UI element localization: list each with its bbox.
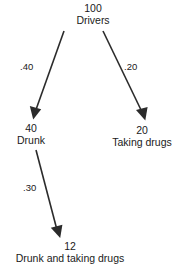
node-drunk-count: 40 [0,122,62,134]
edge-label-drivers-to-drunk: .40 [20,61,33,72]
node-taking-drugs: 20 Taking drugs [98,124,186,148]
arrow-drivers-to-drunk-line [36,31,65,111]
node-drivers-count: 100 [0,2,186,14]
edge-label-drunk-to-both: .30 [23,182,36,193]
arrowhead-drunk-to-both-icon [51,225,63,238]
node-drunk: 40 Drunk [0,122,62,146]
node-taking-drugs-label: Taking drugs [98,136,186,148]
node-drunk-and-taking-drugs: 12 Drunk and taking drugs [0,240,140,264]
node-drunk-and-taking-drugs-label: Drunk and taking drugs [0,252,140,264]
node-drunk-label: Drunk [0,134,62,146]
arrowhead-drivers-to-taking-drugs-icon [136,107,148,121]
node-taking-drugs-count: 20 [98,124,186,136]
arrowhead-drivers-to-drunk-icon [30,106,41,120]
edge-label-drivers-to-taking-drugs: .20 [124,61,137,72]
arrow-drunk-to-both-line [36,150,57,230]
node-drivers-label: Drivers [0,14,186,26]
node-drunk-and-taking-drugs-count: 12 [0,240,140,252]
probability-tree-diagram: 100 Drivers 40 Drunk 20 Taking drugs 12 … [0,0,186,276]
node-drivers: 100 Drivers [0,2,186,26]
